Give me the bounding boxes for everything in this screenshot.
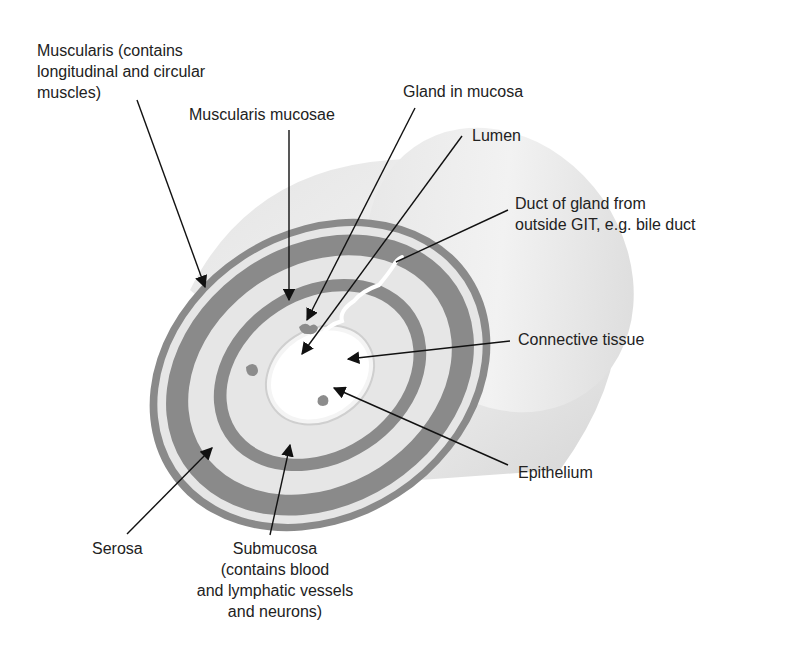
label-gland-in-mucosa: Gland in mucosa <box>403 81 523 102</box>
label-muscularis-mucosae: Muscularis mucosae <box>189 104 335 125</box>
label-muscularis: Muscularis (contains longitudinal and ci… <box>37 40 205 103</box>
label-duct: Duct of gland from outside GIT, e.g. bil… <box>515 193 696 235</box>
label-connective-tissue: Connective tissue <box>518 329 644 350</box>
label-submucosa: Submucosa (contains blood and lymphatic … <box>170 538 380 622</box>
label-serosa: Serosa <box>92 538 143 559</box>
label-epithelium: Epithelium <box>518 462 593 483</box>
muscularis-leader <box>137 100 205 287</box>
label-lumen: Lumen <box>472 125 521 146</box>
